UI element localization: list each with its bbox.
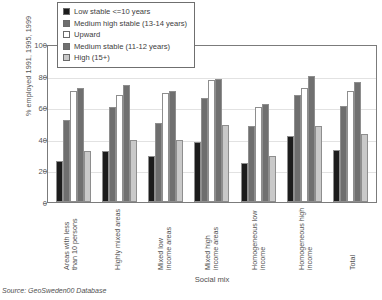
- x-label-slot: Mixed highincome areas: [190, 204, 234, 272]
- legend-label: High (15+): [74, 53, 110, 62]
- bar: [70, 91, 77, 202]
- bar-group: [333, 46, 368, 202]
- bar: [215, 79, 222, 202]
- legend-item: Low stable <=10 years: [63, 6, 187, 18]
- legend-label: Medium high stable (13-14 years): [74, 19, 187, 28]
- bar: [169, 91, 176, 202]
- bar: [315, 126, 322, 202]
- bar: [241, 163, 248, 203]
- bar: [208, 80, 215, 202]
- bar: [109, 107, 116, 202]
- x-category-label: Total: [349, 204, 357, 270]
- legend-item: High (15+): [63, 52, 187, 64]
- bar-group: [194, 46, 229, 202]
- bar: [194, 142, 201, 202]
- x-category-label-line1: Highly mixed areas: [113, 209, 122, 270]
- bar: [63, 120, 70, 202]
- bar-chart-figure: % employed 1991, 1995, 1999 100806040200…: [0, 0, 382, 300]
- bar: [56, 161, 63, 202]
- legend-swatch-icon: [63, 31, 70, 38]
- bar-group: [102, 46, 137, 202]
- legend-swatch-icon: [63, 54, 70, 61]
- bar: [130, 140, 137, 202]
- bar: [77, 88, 84, 202]
- legend-item: Medium high stable (13-14 years): [63, 18, 187, 30]
- bar: [287, 136, 294, 202]
- x-axis-category-labels: Areas with lessthan 10 personsHighly mix…: [47, 204, 377, 272]
- bar: [333, 150, 340, 202]
- bar-group: [56, 46, 91, 202]
- bar: [354, 82, 361, 202]
- legend-swatch-icon: [63, 43, 70, 50]
- x-label-slot: Homogeneous lowincome: [237, 204, 281, 272]
- bar: [308, 76, 315, 202]
- x-category-label-line2: income: [306, 204, 314, 270]
- bar: [116, 95, 123, 202]
- x-category-label-line2: income: [259, 204, 267, 270]
- x-label-slot: Areas with lessthan 10 persons: [49, 204, 93, 272]
- x-label-slot: Mixed lowincome areas: [143, 204, 187, 272]
- legend-label: Low stable <=10 years: [74, 7, 150, 16]
- bar: [102, 151, 109, 202]
- bar: [201, 98, 208, 202]
- bar-group: [148, 46, 183, 202]
- bar: [162, 93, 169, 202]
- x-category-label-line2: income areas: [212, 204, 220, 270]
- y-axis-ticks: 100806040200: [0, 0, 47, 300]
- legend-swatch-icon: [63, 20, 70, 27]
- bar-group: [241, 46, 276, 202]
- x-label-slot: Highly mixed areas: [96, 204, 140, 272]
- x-category-label-line1: Total: [348, 255, 357, 270]
- x-category-label: Mixed lowincome areas: [157, 204, 173, 270]
- legend-label: Medium stable (11-12 years): [74, 42, 170, 51]
- plot-area: [47, 45, 377, 203]
- source-note: Source: GeoSweden00 Database: [2, 287, 106, 294]
- bar: [84, 151, 91, 202]
- bar: [294, 95, 301, 202]
- bar: [347, 91, 354, 202]
- bar: [262, 104, 269, 202]
- x-category-label-line2: income areas: [165, 204, 173, 270]
- bar-groups: [48, 46, 376, 202]
- x-category-label-line2: than 10 persons: [71, 204, 79, 270]
- bar: [176, 140, 183, 202]
- x-category-label: Mixed highincome areas: [204, 204, 220, 270]
- legend-swatch-icon: [63, 8, 70, 15]
- x-category-label: Highly mixed areas: [114, 204, 122, 270]
- x-axis-title: Social mix: [47, 275, 377, 284]
- bar: [248, 126, 255, 202]
- bar-group: [287, 46, 322, 202]
- bar: [255, 107, 262, 202]
- x-category-label: Areas with lessthan 10 persons: [63, 204, 79, 270]
- x-label-slot: Total: [331, 204, 375, 272]
- bar: [155, 123, 162, 202]
- x-category-label: Homogeneous lowincome: [251, 204, 267, 270]
- legend-item: Upward: [63, 29, 187, 41]
- bar: [340, 106, 347, 202]
- legend-item: Medium stable (11-12 years): [63, 41, 187, 53]
- x-category-label: Homogeneous highincome: [298, 204, 314, 270]
- bar: [148, 156, 155, 202]
- bar: [361, 134, 368, 202]
- bar: [269, 156, 276, 202]
- bar: [222, 125, 229, 202]
- legend-label: Upward: [74, 30, 100, 39]
- chart-legend: Low stable <=10 yearsMedium high stable …: [57, 2, 195, 68]
- bar: [123, 85, 130, 202]
- bar: [301, 88, 308, 202]
- x-label-slot: Homogeneous highincome: [284, 204, 328, 272]
